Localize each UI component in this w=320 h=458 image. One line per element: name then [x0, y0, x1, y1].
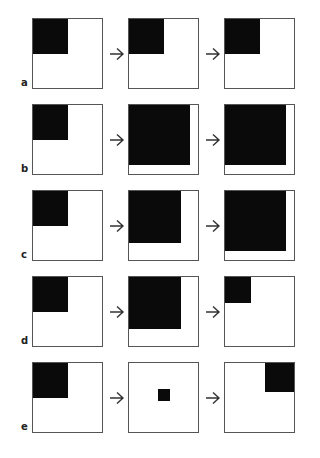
filled-region	[129, 277, 181, 329]
panel-box	[32, 104, 103, 175]
panel-box	[128, 18, 199, 89]
filled-region	[129, 105, 190, 165]
filled-region	[129, 19, 164, 54]
panel-box	[128, 362, 199, 433]
arrow-right-icon	[109, 305, 125, 319]
panel-box	[128, 276, 199, 347]
panel-box	[128, 190, 199, 261]
filled-region	[158, 389, 170, 401]
filled-region	[225, 19, 260, 54]
panel-label: c	[21, 249, 27, 260]
filled-region	[129, 191, 181, 243]
arrow-right-icon	[109, 133, 125, 147]
panel-box	[224, 362, 295, 433]
arrow-right-icon	[205, 133, 221, 147]
panel-label: d	[21, 335, 28, 346]
arrow-right-icon	[205, 305, 221, 319]
panel-box	[128, 104, 199, 175]
filled-region	[33, 105, 68, 140]
panel-box	[224, 190, 295, 261]
arrow-right-icon	[205, 47, 221, 61]
panel-label: e	[21, 421, 28, 432]
filled-region	[33, 19, 68, 54]
panel-box	[32, 18, 103, 89]
panel-box	[32, 276, 103, 347]
panel-box	[224, 18, 295, 89]
filled-region	[33, 191, 68, 226]
arrow-right-icon	[109, 219, 125, 233]
panel-box	[224, 104, 295, 175]
filled-region	[225, 277, 251, 303]
arrow-right-icon	[205, 219, 221, 233]
panel-box	[32, 362, 103, 433]
filled-region	[33, 363, 68, 398]
arrow-right-icon	[109, 47, 125, 61]
filled-region	[265, 363, 294, 392]
panel-label: a	[21, 77, 28, 88]
filled-region	[33, 277, 68, 312]
panel-box	[32, 190, 103, 261]
panel-label: b	[21, 163, 28, 174]
arrow-right-icon	[109, 391, 125, 405]
filled-region	[225, 105, 286, 165]
filled-region	[225, 191, 286, 251]
arrow-right-icon	[205, 391, 221, 405]
panel-box	[224, 276, 295, 347]
